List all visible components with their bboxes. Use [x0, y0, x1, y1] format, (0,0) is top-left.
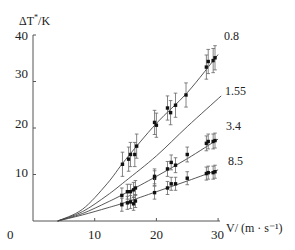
y-tick-label-30: 30 [15, 66, 28, 81]
data-point-marker [213, 170, 216, 173]
data-point-marker [170, 182, 173, 185]
data-point-marker [166, 186, 169, 189]
data-point-marker [174, 164, 177, 167]
data-point-marker [207, 171, 210, 174]
data-point-marker [205, 65, 208, 68]
y-title-unit: /K [38, 14, 50, 28]
y-tick-label-10: 10 [15, 165, 28, 180]
x-axis-title: V/ (m · s⁻¹) [226, 221, 283, 235]
data-point-marker [135, 144, 138, 147]
series-labels: 0.8 1.55 3.4 8.5 [224, 29, 246, 168]
x-tick-label-0: 0 [7, 227, 14, 242]
data-point-marker [129, 153, 132, 156]
data-point-marker [207, 60, 210, 63]
x-tick-label-20: 20 [150, 227, 163, 242]
data-point-marker [126, 201, 129, 204]
data-point-marker [186, 177, 189, 180]
data-point-marker [184, 93, 187, 96]
data-point-marker [155, 124, 158, 127]
data-point-marker [134, 199, 137, 202]
data-point-marker [213, 56, 216, 59]
data-points [120, 46, 217, 212]
y-tick-label-40: 40 [15, 28, 28, 43]
series-label-8.5: 8.5 [228, 154, 243, 168]
y-tick-label-20: 20 [15, 116, 28, 131]
data-point-marker [186, 153, 189, 156]
x-tick-label-10: 10 [88, 227, 101, 242]
data-point-marker [120, 203, 123, 206]
data-point-marker [170, 161, 173, 164]
y-title-main: ΔT [19, 14, 35, 28]
data-point-marker [129, 200, 132, 203]
series-curve-1.55 [58, 96, 222, 221]
data-point-marker [166, 106, 169, 109]
data-point-marker [213, 139, 216, 142]
chart-canvas: 0 10 20 30 10 20 30 40 ΔT*/K V/ (m · s⁻¹… [0, 0, 295, 250]
data-point-marker [120, 194, 123, 197]
data-point-marker [129, 190, 132, 193]
tick-labels: 0 10 20 30 10 20 30 40 [7, 28, 224, 242]
data-point-marker [133, 153, 136, 156]
series-label-0.8: 0.8 [224, 29, 239, 43]
y-axis-title: ΔT*/K [19, 13, 50, 28]
data-point-marker [166, 167, 169, 170]
data-point-marker [153, 191, 156, 194]
data-point-marker [207, 140, 210, 143]
series-curve-0.8 [58, 55, 218, 221]
x-tick-label-30: 30 [211, 227, 224, 242]
data-point-marker [153, 175, 156, 178]
data-point-marker [169, 111, 172, 114]
data-point-marker [127, 157, 130, 160]
data-point-marker [134, 186, 137, 189]
series-curve-3.4 [58, 139, 218, 221]
data-point-marker [126, 190, 129, 193]
data-point-marker [174, 182, 177, 185]
series-label-1.55: 1.55 [225, 84, 246, 98]
data-point-marker [174, 104, 177, 107]
curves [58, 55, 222, 221]
series-label-3.4: 3.4 [226, 119, 241, 133]
data-point-marker [121, 163, 124, 166]
